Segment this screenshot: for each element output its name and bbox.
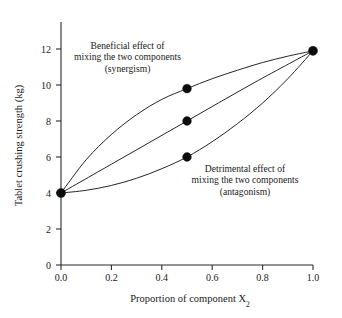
y-axis-title: Tablet crushing strength (kg) bbox=[13, 46, 24, 246]
y-tick-label: 4 bbox=[46, 188, 51, 199]
data-point-antagonism-mid bbox=[183, 153, 192, 162]
y-tick-label: 6 bbox=[46, 152, 51, 163]
data-point-origin bbox=[56, 188, 65, 197]
y-tick-label: 10 bbox=[41, 80, 51, 91]
annotation-antagonism-line-3: (antagonism) bbox=[170, 186, 320, 197]
y-tick-label: 12 bbox=[41, 44, 51, 55]
annotation-synergism-line-3: (synergism) bbox=[55, 63, 200, 74]
x-tick-label: 0.2 bbox=[105, 272, 118, 283]
y-tick-label: 2 bbox=[46, 224, 51, 235]
data-point-endpoint bbox=[308, 46, 317, 55]
data-point-additive-mid bbox=[183, 117, 192, 126]
x-tick-label: 0.0 bbox=[55, 272, 68, 283]
data-point-synergism-mid bbox=[183, 84, 192, 93]
y-tick-label: 8 bbox=[46, 116, 51, 127]
annotation-synergism-line-2: mixing the two components bbox=[55, 51, 200, 62]
x-tick-label: 1.0 bbox=[307, 272, 320, 283]
annotation-synergism: Beneficial effect of mixing the two comp… bbox=[55, 40, 200, 74]
chart-figure: 0 2 4 6 8 10 12 0.0 0.2 0.4 0.6 0.8 1.0 bbox=[0, 0, 342, 318]
x-tick-label: 0.6 bbox=[206, 272, 219, 283]
annotation-antagonism: Detrimental effect of mixing the two com… bbox=[170, 163, 320, 197]
annotation-antagonism-line-1: Detrimental effect of bbox=[170, 163, 320, 174]
annotation-synergism-line-1: Beneficial effect of bbox=[55, 40, 200, 51]
y-axis-tick-labels: 0 2 4 6 8 10 12 bbox=[41, 44, 51, 271]
x-tick-label: 0.8 bbox=[256, 272, 269, 283]
x-axis-ticks bbox=[61, 265, 313, 270]
y-tick-label: 0 bbox=[46, 260, 51, 271]
y-axis-ticks bbox=[56, 49, 61, 265]
x-tick-label: 0.4 bbox=[156, 272, 169, 283]
x-axis-tick-labels: 0.0 0.2 0.4 0.6 0.8 1.0 bbox=[55, 272, 320, 283]
x-axis-title: Proportion of component X2 bbox=[130, 293, 250, 309]
annotation-antagonism-line-2: mixing the two components bbox=[170, 174, 320, 185]
